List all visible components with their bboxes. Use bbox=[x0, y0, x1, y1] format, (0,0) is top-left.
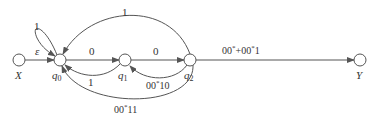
edge-label-q2-y: 00*+00*1 bbox=[222, 44, 260, 56]
node-q2 bbox=[184, 54, 196, 66]
edge-q2-q0-top bbox=[63, 15, 190, 54]
edge-label-q2-q0-top: 1 bbox=[122, 6, 128, 18]
node-y bbox=[354, 54, 366, 66]
node-label-q1: q1 bbox=[118, 69, 128, 83]
state-diagram: X q0 q1 q2 Y ε 1 0 1 0 00*10 1 00*11 00*… bbox=[0, 0, 374, 121]
edge-label-self-loop: 1 bbox=[34, 20, 40, 32]
node-x bbox=[13, 54, 25, 66]
edge-label-q2-q1: 00*10 bbox=[146, 79, 170, 91]
node-label-q0: q0 bbox=[52, 69, 62, 83]
edge-q1-q0 bbox=[65, 64, 120, 75]
node-q0 bbox=[54, 54, 66, 66]
edge-label-q0-q1: 0 bbox=[89, 45, 95, 57]
node-label-y: Y bbox=[356, 69, 364, 81]
node-label-x: X bbox=[14, 69, 23, 81]
edge-q2-q1 bbox=[130, 65, 187, 78]
edge-label-q2-q0-bottom: 00*11 bbox=[114, 103, 137, 115]
edge-label-q1-q2: 0 bbox=[153, 45, 159, 57]
edge-q2-q0-bottom bbox=[62, 65, 193, 99]
edge-label-epsilon: ε bbox=[35, 45, 40, 57]
node-q1 bbox=[119, 54, 131, 66]
edge-label-q1-q0: 1 bbox=[88, 76, 94, 88]
